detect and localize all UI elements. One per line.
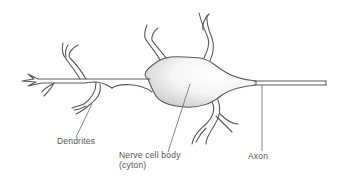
- axon: [254, 81, 326, 85]
- dendrite-top-2: [199, 13, 213, 61]
- cell-body-label: Nerve cell body (cyton): [119, 150, 181, 170]
- axon-label: Axon: [248, 151, 268, 161]
- cell-body-label-line1: Nerve cell body: [119, 150, 181, 160]
- dendrite-upper-left: [62, 43, 86, 79]
- dendrite-top-1: [145, 25, 166, 60]
- dendrites-label: Dendrites: [57, 136, 95, 146]
- cell-body: [145, 57, 256, 107]
- neuron-diagram: Dendrites Nerve cell body (cyton) Axon: [0, 0, 348, 180]
- cell-body-label-line2: (cyton): [119, 160, 181, 170]
- dendrite-lower-left: [72, 83, 100, 114]
- dendrite-main: [22, 74, 152, 96]
